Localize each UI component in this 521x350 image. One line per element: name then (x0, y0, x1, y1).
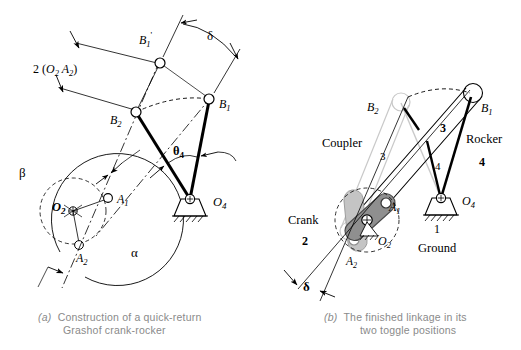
label-ground-b: Ground (418, 241, 457, 255)
rocker-position-1-a (190, 101, 209, 199)
beta-arrow-bottom (48, 267, 63, 273)
caption-a-line2: Grashof crank-rocker (63, 324, 166, 336)
label-rocker-b: Rocker (466, 132, 503, 146)
dim-arrow-upper (70, 31, 79, 48)
joint-b2-a (131, 107, 141, 117)
label-rocker-num-ghost-b: 4 (435, 160, 441, 172)
label-o2-a: O2 (52, 200, 66, 216)
label-b1-a: B1 (219, 97, 231, 113)
delta-line-left (163, 15, 183, 57)
beta-leader-bottom (38, 267, 48, 287)
caption-b-line1: (b) The finished linkage in its (324, 311, 467, 323)
crank-arrow-a (96, 175, 108, 184)
label-b1-prime-a: B1' (139, 30, 153, 49)
delta-arrow-left (181, 20, 197, 23)
theta4-arrow-right (201, 152, 218, 156)
crank-a2-line (73, 211, 79, 243)
label-coupler-num-b: 3 (440, 121, 446, 135)
crank-a1-line (73, 199, 107, 211)
label-b2-a: B2 (110, 113, 122, 129)
ground-pivot-o4-a (172, 194, 208, 222)
label-rocker-num-b: 4 (479, 155, 485, 169)
panel-b: B1 B2 A1 A2 O2 O4 Coupler 3 3 Rocker 4 4… (284, 84, 503, 337)
linkage-figure: B1' B1 B2 A1 A2 O2 O4 θ4 δ α β 2 (O2 A2) (0, 0, 521, 350)
label-a2-a: A2 (75, 251, 88, 267)
label-o4-a: O4 (213, 195, 227, 211)
joint-a1-a (104, 194, 113, 203)
label-theta4-a: θ4 (173, 144, 185, 160)
label-a2-b: A2 (345, 255, 357, 270)
label-crank-num-b: 2 (302, 234, 308, 248)
joint-b1-prime-a (155, 58, 165, 68)
label-b1-b: B1 (481, 101, 493, 117)
label-crank-b: Crank (288, 213, 319, 227)
rocker-arc-dashed-b (408, 89, 470, 97)
label-ground-num-b: 1 (434, 222, 440, 236)
label-dimension-a: 2 (O2 A2) (33, 62, 77, 78)
panel-a: B1' B1 B2 A1 A2 O2 O4 θ4 δ α β 2 (O2 A2) (19, 15, 240, 336)
label-o4-b: O4 (462, 194, 476, 210)
dim-line-lower (60, 88, 135, 110)
label-o2-b: O2 (378, 234, 392, 250)
label-b2-b: B2 (367, 100, 379, 116)
joint-b1-a (204, 94, 214, 104)
rocker-arc-dashed-a (136, 98, 209, 112)
label-coupler-b: Coupler (322, 136, 363, 150)
line-b2-b1prime (136, 63, 160, 112)
label-coupler-num-ghost-b: 3 (380, 150, 386, 162)
label-a1-a: A1 (116, 192, 129, 208)
label-delta-b: δ (303, 279, 310, 294)
delta-arrow-b-left (284, 270, 297, 285)
line-b1prime-b1 (160, 63, 210, 99)
caption-a-line1: (a) Construction of a quick-return (38, 311, 201, 323)
theta4-leader-curve (218, 152, 236, 161)
ground-pivot-o4-b (423, 193, 459, 221)
label-alpha-a: α (131, 245, 138, 260)
figure-container: B1' B1 B2 A1 A2 O2 O4 θ4 δ α β 2 (O2 A2) (0, 0, 521, 350)
label-a1-b: A1 (388, 200, 401, 216)
label-beta-a: β (19, 165, 26, 180)
alpha-arrow-top (111, 163, 122, 173)
label-delta-a: δ (207, 28, 213, 43)
caption-b-line2: two toggle positions (360, 324, 456, 336)
